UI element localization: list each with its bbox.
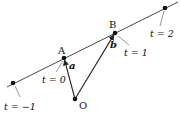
param-pointer-B	[118, 36, 129, 45]
point-A-dot	[62, 56, 67, 61]
vector-b-arrow	[75, 35, 114, 99]
param-pointer-A	[56, 61, 63, 72]
param-label-p-2: t = 2	[150, 28, 174, 39]
origin-label: O	[79, 100, 87, 111]
param-label-B: t = 1	[124, 47, 148, 58]
point-p-minus1-dot	[11, 81, 16, 86]
diagram-canvas: abt = −1t = 0At = 1Bt = 2O	[0, 0, 180, 116]
point-A-name: A	[57, 45, 66, 56]
point-B-name: B	[109, 19, 116, 30]
point-B-dot	[113, 31, 118, 36]
param-label-p-minus1: t = −1	[4, 101, 36, 112]
point-p-2-dot	[163, 6, 168, 11]
labels-group: abt = −1t = 0At = 1Bt = 2O	[4, 19, 174, 112]
param-label-A: t = 0	[42, 74, 66, 85]
vector-a-label: a	[69, 60, 75, 71]
parametric-line	[7, 2, 178, 87]
vector-b-label: b	[110, 39, 117, 50]
origin-dot	[73, 97, 78, 102]
param-pointer-p-2	[160, 11, 164, 26]
param-pointer-p-minus1	[15, 86, 20, 97]
diagram-svg: abt = −1t = 0At = 1Bt = 2O	[0, 0, 180, 116]
